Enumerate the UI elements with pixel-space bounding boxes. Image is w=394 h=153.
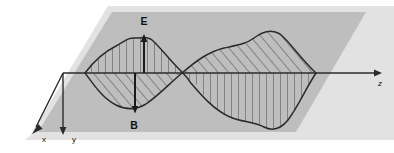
- b-field-label: B: [130, 119, 138, 131]
- em-wave-figure: E B z x y: [0, 0, 394, 153]
- y-axis-label: y: [72, 135, 76, 144]
- em-wave-diagram: E B z x y: [0, 0, 394, 153]
- e-field-label: E: [140, 15, 147, 27]
- z-axis-label: z: [377, 79, 382, 88]
- x-axis-label: x: [42, 135, 46, 144]
